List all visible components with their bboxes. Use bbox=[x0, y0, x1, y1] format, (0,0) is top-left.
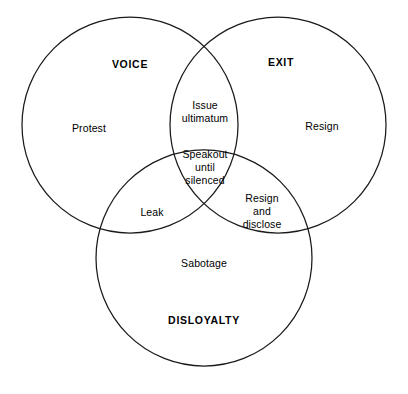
region-label-voice-disloyalty: Leak bbox=[140, 206, 163, 219]
region-label-disloyalty-only: Sabotage bbox=[181, 257, 227, 270]
region-label-all-three: Speakout until silenced bbox=[182, 148, 227, 186]
circle-voice bbox=[22, 17, 238, 233]
set-title-disloyalty: DISLOYALTY bbox=[168, 314, 240, 327]
region-label-voice-only: Protest bbox=[72, 122, 106, 135]
set-title-exit: EXIT bbox=[268, 56, 294, 69]
venn-circles-svg bbox=[0, 0, 408, 394]
region-label-voice-exit: Issue ultimatum bbox=[182, 99, 228, 125]
region-label-exit-only: Resign bbox=[305, 120, 338, 133]
set-title-voice: VOICE bbox=[112, 58, 148, 71]
region-label-exit-disloyalty: Resign and disclose bbox=[243, 192, 282, 230]
venn-diagram: VOICE EXIT DISLOYALTY Protest Resign Sab… bbox=[0, 0, 408, 394]
